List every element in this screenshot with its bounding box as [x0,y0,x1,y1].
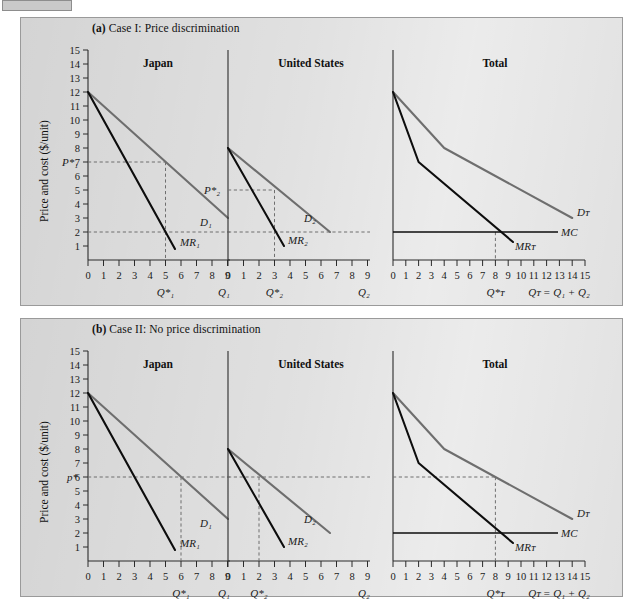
svg-text:13: 13 [70,73,81,84]
x-tick-marks [228,561,368,567]
us-1-guides [228,190,370,260]
svg-text:9: 9 [506,571,511,582]
svg-text:5: 5 [163,571,168,582]
price-star-label-p2: P*₂ [203,184,220,196]
svg-text:1: 1 [101,571,106,582]
svg-text:6: 6 [178,270,183,281]
price-star-label-p: p* [66,471,79,483]
svg-text:15: 15 [70,45,81,56]
svg-text:7: 7 [480,571,485,582]
svg-text:15: 15 [580,571,591,582]
svg-text:5: 5 [163,270,168,281]
x-axis-label-qt: Qᴛ = Q₁ + Q₂ [528,587,590,599]
svg-text:14: 14 [567,571,578,582]
y-tick-marks [83,351,88,547]
marginal-revenue-curve-mr2 [228,148,284,246]
x-tick-marks [393,260,585,266]
svg-text:4: 4 [147,571,153,582]
marginal-revenue-curve-mrt [393,92,513,242]
q-star-label-2: Q*₂ [266,286,283,298]
svg-text:11: 11 [529,571,539,582]
x-tick-labels: 012 345 678 9 [225,571,370,582]
y-tick-marks [83,50,88,246]
svg-text:7: 7 [480,270,485,281]
x-tick-marks [393,561,585,567]
svg-text:13: 13 [554,270,565,281]
svg-text:9: 9 [75,430,80,441]
mc-label: MC [560,527,578,539]
svg-text:3: 3 [75,213,80,224]
svg-text:7: 7 [334,571,339,582]
x-tick-labels: 012 345 678 91011 121314 15 [390,571,590,582]
svg-text:11: 11 [529,270,539,281]
svg-text:2: 2 [75,227,80,238]
total-1-axes: 012 345 678 91011 121314 15 [390,50,590,281]
svg-text:12: 12 [541,270,552,281]
mr-label-mrt: MRᴛ [514,240,536,252]
svg-text:2: 2 [416,571,421,582]
svg-text:0: 0 [225,270,230,281]
mr-label-mr1: MR₁ [179,236,200,248]
svg-text:5: 5 [454,571,459,582]
svg-text:3: 3 [272,571,277,582]
svg-text:1: 1 [75,241,80,252]
marginal-revenue-curve-mr1 [88,393,175,550]
svg-text:9: 9 [506,270,511,281]
mr-label-mr2: MR₂ [287,234,308,246]
mc-label: MC [560,226,578,238]
svg-text:0: 0 [225,571,230,582]
y-tick-labels: 151413 121110 987 654 321 [70,45,81,252]
svg-text:1: 1 [101,270,106,281]
svg-text:3: 3 [75,514,80,525]
mr-label-mr2: MR₂ [287,535,308,547]
case-1-caption: (a) Case I: Price discrimination [92,22,240,34]
svg-text:0: 0 [390,270,395,281]
svg-text:12: 12 [70,87,81,98]
svg-text:1: 1 [241,571,246,582]
svg-text:10: 10 [516,571,527,582]
svg-text:8: 8 [75,143,80,154]
x-tick-labels: 012 345 678 91011 121314 15 [390,270,590,281]
svg-text:4: 4 [442,571,448,582]
svg-text:2: 2 [256,270,261,281]
svg-text:4: 4 [287,270,293,281]
figure-root: (a) Case I: Price discrimination Price a… [0,0,635,611]
svg-text:2: 2 [116,571,121,582]
svg-text:11: 11 [70,101,80,112]
svg-text:5: 5 [75,486,80,497]
y-tick-labels: 151413 121110 987 654 321 [70,346,81,553]
q-star-label-total: Q*ᴛ [487,587,505,599]
marginal-revenue-curve-mr2 [228,449,284,547]
page-header-strip [2,0,72,11]
svg-text:8: 8 [349,270,354,281]
svg-text:4: 4 [75,500,81,511]
svg-text:0: 0 [85,270,90,281]
total-2-guides [393,477,495,561]
svg-text:1: 1 [403,571,408,582]
mr-label-mrt: MRᴛ [514,541,536,553]
case-1-us-chart: 012 345 678 9 D₂ MR₂ Q*₂ Q₂ P*₂ [198,44,378,294]
q-star-label-2: Q*₂ [250,587,267,599]
svg-text:4: 4 [287,571,293,582]
x-tick-marks [228,260,368,266]
case-1-title: Case I: Price discrimination [109,22,240,34]
svg-text:14: 14 [567,270,578,281]
svg-text:8: 8 [349,571,354,582]
demand-label-dt: Dᴛ [576,507,590,519]
svg-text:3: 3 [132,270,137,281]
svg-text:11: 11 [70,402,80,413]
x-axis-label-qt: Qᴛ = Q₁ + Q₂ [528,286,590,298]
svg-text:4: 4 [442,270,448,281]
q-star-label-1: Q*₁ [172,587,189,599]
svg-text:6: 6 [467,571,472,582]
total-2-axes: 012 345 678 91011 121314 15 [390,351,590,582]
svg-text:3: 3 [132,571,137,582]
svg-text:10: 10 [70,416,81,427]
price-star-label-p1: P*₁ [61,156,78,168]
svg-text:0: 0 [390,571,395,582]
svg-text:8: 8 [75,444,80,455]
svg-text:3: 3 [429,571,434,582]
svg-text:4: 4 [75,199,81,210]
svg-text:6: 6 [318,571,323,582]
case-1-total-chart: 012 345 678 91011 121314 15 Dᴛ MC MRᴛ Q*… [363,44,628,294]
